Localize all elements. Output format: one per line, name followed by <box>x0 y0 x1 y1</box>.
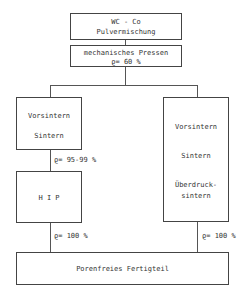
box-powder-mixing: WC - Co Pulvermischung <box>70 13 182 40</box>
box-right-sintering: Vorsintern Sintern Überdruck- sintern <box>163 97 229 222</box>
connector-hip-final <box>50 223 51 252</box>
connector-right-final <box>197 222 198 252</box>
connector-press-split <box>125 67 126 85</box>
box-hip: H I P <box>16 171 82 223</box>
box-text: sintern <box>164 192 228 200</box>
density-label: ϱ= 100 % <box>202 232 236 240</box>
box-text: Pulvermischung <box>71 28 181 36</box>
box-final-part: Porenfreies Fertigteil <box>16 252 229 285</box>
box-text: mechanisches Pressen <box>71 49 181 57</box>
connector-split-right <box>197 85 198 97</box>
connector-sinter-hip <box>50 150 51 171</box>
box-text: Sintern <box>17 132 81 140</box>
box-text: Sintern <box>164 152 228 160</box>
density-label: ϱ= 100 % <box>54 232 88 240</box>
box-text: H I P <box>17 194 81 202</box>
connector-split-horizontal <box>50 85 198 86</box>
box-mechanical-pressing: mechanisches Pressen ϱ= 60 % <box>70 45 182 67</box>
box-text: WC - Co <box>71 18 181 26</box>
connector-split-left <box>50 85 51 97</box>
density-label: ϱ= 95-99 % <box>54 156 96 164</box>
box-text: Vorsintern <box>17 112 81 120</box>
box-text: Überdruck- <box>164 181 228 189</box>
box-text: Vorsintern <box>164 123 228 131</box>
box-left-sintering: Vorsintern Sintern <box>16 97 82 150</box>
box-text: Porenfreies Fertigteil <box>17 265 228 273</box>
box-text: ϱ= 60 % <box>71 58 181 66</box>
